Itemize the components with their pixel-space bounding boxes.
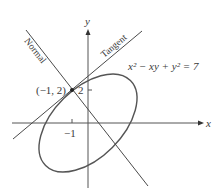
x-tick-label: −1 <box>64 127 76 139</box>
tangent-normal-diagram: x y 2 −1 (−1, 2) x² − xy + y² = 7 Normal… <box>0 0 221 192</box>
y-axis-label: y <box>84 15 90 27</box>
y-axis-arrow-icon <box>86 29 91 35</box>
x-axis-arrow-icon <box>198 121 204 126</box>
normal-label: Normal <box>22 36 48 65</box>
y-tick-label: 2 <box>78 84 84 96</box>
x-axis-label: x <box>205 117 211 129</box>
point-label: (−1, 2) <box>36 84 66 97</box>
point-marker <box>70 88 74 92</box>
equation-label: x² − xy + y² = 7 <box>127 60 199 72</box>
